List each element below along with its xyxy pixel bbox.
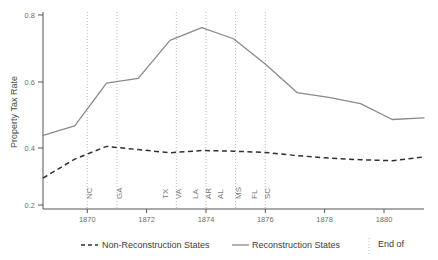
chart-figure: Property Tax Rate 0.8 0.6 0.4 0.2 NC GA … <box>0 0 438 260</box>
event-label-nc: NC <box>85 187 94 199</box>
event-lines-group <box>87 12 265 209</box>
event-label-ga: GA <box>115 187 124 199</box>
x-tick-label-4: 1878 <box>316 215 333 224</box>
x-tick-label-5: 1880 <box>376 215 393 224</box>
x-tick-label-1: 1872 <box>138 215 155 224</box>
event-label-tx: TX <box>161 188 170 199</box>
series-line-reconstruction-states <box>43 28 424 136</box>
y-tick-label-1: 0.6 <box>25 78 35 87</box>
event-label-ar: AR <box>204 188 213 199</box>
x-tick-label-0: 1870 <box>79 215 96 224</box>
event-label-al: AL <box>216 189 225 199</box>
y-tick-label-3: 0.2 <box>25 201 35 210</box>
y-axis-title: Property Tax Rate <box>9 76 19 148</box>
legend-label-end-of: End of <box>378 239 405 249</box>
y-tick-label-2: 0.4 <box>25 144 35 153</box>
x-tick-label-3: 1876 <box>257 215 274 224</box>
y-tick-label-0: 0.8 <box>25 11 35 20</box>
event-label-va: VA <box>174 188 183 199</box>
event-label-la: LA <box>191 189 200 199</box>
event-label-ms: MS <box>234 187 243 199</box>
property-tax-rate-line-chart: Property Tax Rate 0.8 0.6 0.4 0.2 NC GA … <box>0 0 438 260</box>
event-label-fl: FL <box>250 189 259 199</box>
x-tick-label-2: 1874 <box>198 215 215 224</box>
legend-label-reconstruction: Reconstruction States <box>252 240 341 250</box>
chart-legend: Non-Reconstruction States Reconstruction… <box>81 238 405 254</box>
series-line-non-reconstruction-states <box>43 146 424 178</box>
event-label-sc: SC <box>263 188 272 199</box>
legend-label-non-reconstruction: Non-Reconstruction States <box>102 240 210 250</box>
